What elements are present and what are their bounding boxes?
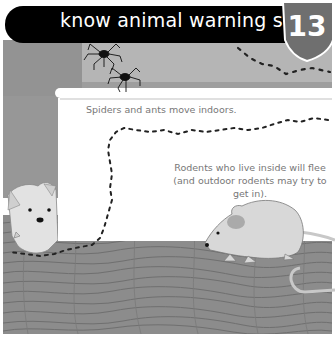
- book-page: know animal warning signs 13 Spiders and…: [0, 0, 335, 337]
- page-number: 13: [283, 10, 331, 43]
- caption-rodents: Rodents who live inside will flee (and o…: [170, 161, 330, 200]
- caption-spiders-ants: Spiders and ants move indoors.: [86, 104, 237, 115]
